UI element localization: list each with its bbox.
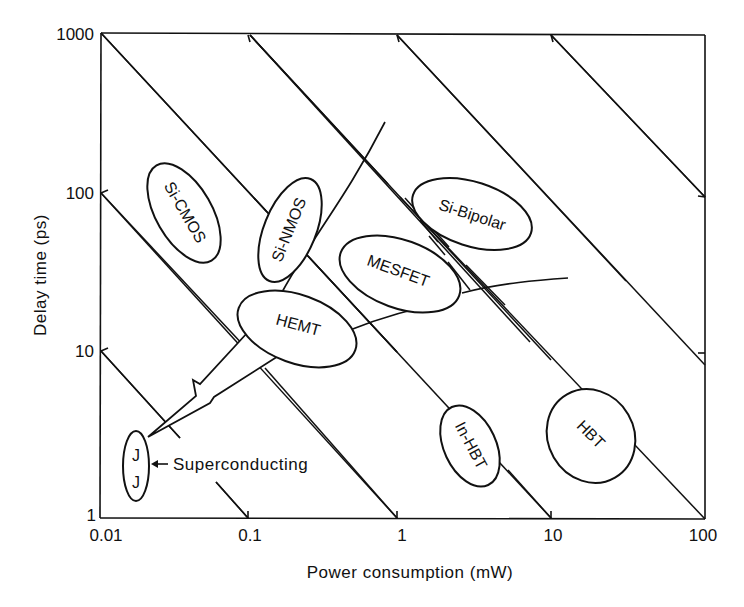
x-tick-100: 100	[689, 526, 717, 545]
y-axis	[100, 33, 101, 518]
x-axis	[100, 518, 705, 519]
y-tick-1: 1	[87, 506, 96, 525]
top-border	[101, 33, 705, 35]
y-tick-100: 100	[66, 184, 94, 203]
x-tick-10: 10	[544, 526, 563, 545]
x-tick-1: 1	[397, 526, 406, 545]
pointer-arrowhead-icon	[151, 460, 158, 468]
y-tick-1000: 1000	[56, 25, 94, 44]
jj-label-top: J	[132, 447, 140, 464]
jj-label-bottom: J	[132, 474, 140, 491]
x-axis-title: Power consumption (mW)	[307, 563, 514, 582]
y-axis-title: Delay time (ps)	[31, 214, 50, 336]
pd-line-10pJ	[400, 197, 705, 519]
superconducting-label: Superconducting	[173, 455, 308, 474]
x-tick-0.1: 0.1	[238, 526, 262, 545]
technology-regions	[123, 151, 652, 501]
x-tick-0.01: 0.01	[89, 526, 122, 545]
y-tick-10: 10	[75, 342, 94, 361]
power-delay-chart: Si-CMOS Si-NMOS Si-Bipolar MESFET HEMT I…	[0, 0, 744, 607]
